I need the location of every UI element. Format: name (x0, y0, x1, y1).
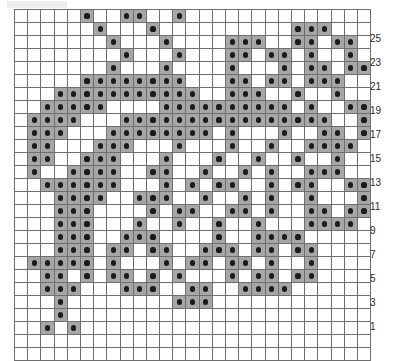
stitch-cell-filled[interactable] (54, 270, 67, 283)
stitch-cell-empty[interactable] (94, 283, 107, 296)
stitch-cell-empty[interactable] (199, 322, 212, 335)
stitch-cell-filled[interactable] (80, 10, 93, 23)
stitch-cell-filled[interactable] (265, 192, 278, 205)
stitch-cell-filled[interactable] (80, 270, 93, 283)
stitch-cell-empty[interactable] (357, 244, 370, 257)
stitch-cell-empty[interactable] (133, 140, 146, 153)
stitch-cell-empty[interactable] (291, 192, 304, 205)
stitch-cell-empty[interactable] (318, 49, 331, 62)
stitch-cell-empty[interactable] (278, 296, 291, 309)
stitch-cell-empty[interactable] (133, 62, 146, 75)
stitch-cell-empty[interactable] (28, 192, 41, 205)
stitch-cell-filled[interactable] (41, 257, 54, 270)
stitch-cell-empty[interactable] (252, 257, 265, 270)
stitch-cell-empty[interactable] (278, 270, 291, 283)
stitch-cell-filled[interactable] (212, 218, 225, 231)
stitch-cell-empty[interactable] (331, 283, 344, 296)
stitch-cell-empty[interactable] (212, 348, 225, 361)
stitch-cell-filled[interactable] (54, 192, 67, 205)
stitch-cell-empty[interactable] (160, 348, 173, 361)
stitch-cell-filled[interactable] (331, 88, 344, 101)
stitch-cell-filled[interactable] (28, 140, 41, 153)
stitch-cell-empty[interactable] (357, 140, 370, 153)
stitch-cell-empty[interactable] (357, 153, 370, 166)
stitch-cell-empty[interactable] (28, 36, 41, 49)
stitch-cell-empty[interactable] (278, 179, 291, 192)
stitch-cell-empty[interactable] (344, 348, 357, 361)
stitch-cell-empty[interactable] (15, 75, 28, 88)
stitch-cell-empty[interactable] (291, 140, 304, 153)
stitch-cell-empty[interactable] (67, 335, 80, 348)
stitch-cell-empty[interactable] (199, 49, 212, 62)
stitch-cell-filled[interactable] (305, 62, 318, 75)
stitch-cell-empty[interactable] (133, 23, 146, 36)
stitch-cell-filled[interactable] (265, 140, 278, 153)
stitch-cell-filled[interactable] (318, 205, 331, 218)
stitch-cell-empty[interactable] (226, 218, 239, 231)
stitch-cell-empty[interactable] (318, 296, 331, 309)
stitch-cell-filled[interactable] (305, 244, 318, 257)
stitch-cell-empty[interactable] (67, 62, 80, 75)
stitch-cell-empty[interactable] (173, 179, 186, 192)
stitch-cell-filled[interactable] (278, 101, 291, 114)
stitch-cell-empty[interactable] (160, 335, 173, 348)
stitch-cell-filled[interactable] (173, 75, 186, 88)
stitch-cell-empty[interactable] (291, 335, 304, 348)
stitch-cell-empty[interactable] (160, 205, 173, 218)
stitch-cell-empty[interactable] (146, 153, 159, 166)
stitch-cell-empty[interactable] (357, 49, 370, 62)
stitch-cell-filled[interactable] (186, 179, 199, 192)
stitch-cell-filled[interactable] (331, 127, 344, 140)
stitch-cell-empty[interactable] (344, 153, 357, 166)
stitch-cell-filled[interactable] (239, 49, 252, 62)
stitch-cell-filled[interactable] (107, 75, 120, 88)
stitch-cell-empty[interactable] (199, 270, 212, 283)
stitch-cell-filled[interactable] (344, 62, 357, 75)
stitch-cell-empty[interactable] (186, 10, 199, 23)
stitch-cell-filled[interactable] (146, 205, 159, 218)
stitch-cell-filled[interactable] (146, 270, 159, 283)
stitch-cell-empty[interactable] (331, 192, 344, 205)
stitch-cell-empty[interactable] (120, 179, 133, 192)
stitch-cell-filled[interactable] (28, 166, 41, 179)
stitch-cell-empty[interactable] (199, 179, 212, 192)
stitch-cell-filled[interactable] (318, 166, 331, 179)
stitch-cell-empty[interactable] (186, 75, 199, 88)
stitch-cell-filled[interactable] (160, 36, 173, 49)
stitch-cell-empty[interactable] (67, 270, 80, 283)
stitch-cell-filled[interactable] (199, 192, 212, 205)
stitch-cell-empty[interactable] (28, 309, 41, 322)
stitch-cell-empty[interactable] (54, 75, 67, 88)
stitch-cell-empty[interactable] (291, 322, 304, 335)
stitch-cell-filled[interactable] (120, 244, 133, 257)
stitch-cell-filled[interactable] (107, 153, 120, 166)
stitch-cell-empty[interactable] (146, 296, 159, 309)
stitch-cell-empty[interactable] (173, 36, 186, 49)
stitch-cell-empty[interactable] (28, 348, 41, 361)
stitch-cell-empty[interactable] (146, 257, 159, 270)
stitch-cell-empty[interactable] (331, 179, 344, 192)
stitch-cell-empty[interactable] (291, 205, 304, 218)
stitch-cell-empty[interactable] (291, 75, 304, 88)
stitch-cell-empty[interactable] (186, 49, 199, 62)
stitch-cell-filled[interactable] (305, 49, 318, 62)
stitch-cell-filled[interactable] (265, 231, 278, 244)
stitch-cell-empty[interactable] (67, 153, 80, 166)
stitch-cell-empty[interactable] (133, 101, 146, 114)
stitch-cell-empty[interactable] (265, 348, 278, 361)
stitch-cell-filled[interactable] (54, 244, 67, 257)
stitch-cell-empty[interactable] (173, 348, 186, 361)
stitch-cell-filled[interactable] (160, 88, 173, 101)
stitch-cell-empty[interactable] (54, 166, 67, 179)
stitch-cell-filled[interactable] (186, 205, 199, 218)
stitch-cell-empty[interactable] (173, 153, 186, 166)
stitch-cell-empty[interactable] (94, 231, 107, 244)
stitch-cell-filled[interactable] (173, 127, 186, 140)
stitch-cell-empty[interactable] (28, 296, 41, 309)
stitch-cell-filled[interactable] (28, 153, 41, 166)
stitch-cell-empty[interactable] (107, 322, 120, 335)
stitch-cell-empty[interactable] (15, 322, 28, 335)
stitch-cell-empty[interactable] (15, 62, 28, 75)
stitch-cell-empty[interactable] (212, 10, 225, 23)
stitch-cell-empty[interactable] (67, 309, 80, 322)
